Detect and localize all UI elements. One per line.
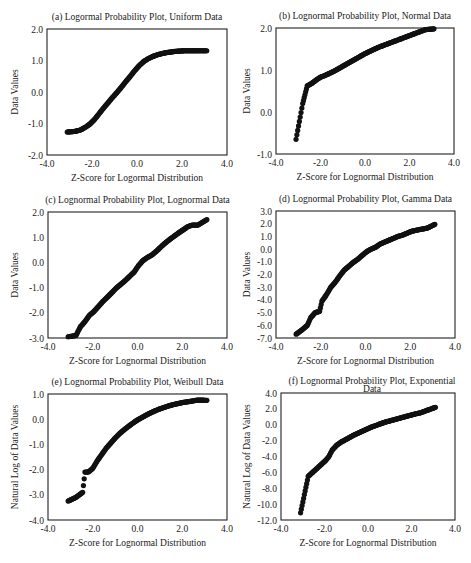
panel-e: (e) Lognormal Probability Plot, Weibull … [10, 377, 233, 548]
x-tick-label: -2.0 [84, 159, 99, 169]
data-point [82, 476, 87, 481]
data-points [65, 48, 210, 134]
y-tick-label: -2.0 [262, 436, 277, 446]
data-point [296, 123, 301, 128]
x-tick-label: -4.0 [268, 342, 283, 352]
y-tick-label: -4.0 [257, 295, 272, 305]
y-tick-label: 3.0 [260, 207, 272, 217]
x-axis-label: Z-Score for Lognormal Distribution [297, 172, 434, 182]
data-point [431, 26, 436, 31]
y-tick-label: -1.0 [257, 257, 272, 267]
y-axis-label: Data Values [242, 251, 252, 297]
plot-frame [48, 394, 227, 520]
y-axis-label: Natural Log of Data Values [242, 404, 252, 509]
x-tick-label: 0.0 [359, 158, 371, 168]
y-axis-label: Data Values [242, 68, 252, 114]
x-tick-label: -2.0 [313, 158, 328, 168]
y-tick-label: 0.0 [31, 88, 43, 98]
x-tick-label: 4.0 [221, 342, 233, 352]
x-tick-label: 0.0 [362, 524, 374, 534]
y-tick-label: 0.0 [260, 245, 272, 255]
data-point [298, 110, 303, 115]
panel-f: (f) Lognormal Probability Plot, Exponent… [242, 376, 461, 548]
y-tick-label: -3.0 [29, 334, 44, 344]
y-tick-label: 0.0 [260, 108, 272, 118]
y-tick-label: -10.0 [257, 500, 277, 510]
y-tick-label: 2.0 [32, 208, 44, 218]
data-point [81, 483, 86, 488]
data-point [204, 217, 209, 222]
figure: (a) Logormal Probability Plot, Uniform D… [0, 0, 471, 563]
y-tick-label: 2.0 [260, 219, 272, 229]
y-tick-label: 0.0 [265, 420, 277, 430]
x-axis-label: Z-Score for Lognormal Distribution [297, 356, 434, 366]
panel-b: (b) Lognormal Probability Plot, Normal D… [242, 11, 460, 182]
panel-d: (d) Lognormal Probability Plot, Gamma Da… [242, 194, 461, 366]
x-tick-label: 4.0 [221, 159, 233, 169]
chart-title: (f) Lognormal Probability Plot, Exponent… [288, 376, 455, 394]
data-points [66, 217, 210, 339]
x-tick-label: -4.0 [40, 524, 55, 534]
y-tick-label: -2.0 [28, 151, 43, 161]
y-tick-label: 1.0 [260, 232, 272, 242]
data-points [298, 405, 438, 516]
data-point [294, 132, 299, 137]
x-tick-label: 2.0 [176, 159, 188, 169]
x-tick-label: 2.0 [404, 158, 416, 168]
plot-frame [48, 212, 227, 338]
y-tick-label: -1.0 [29, 283, 44, 293]
x-tick-label: 2.0 [176, 524, 188, 534]
x-tick-label: -4.0 [268, 158, 283, 168]
y-tick-label: -4.0 [29, 516, 44, 526]
x-tick-label: 2.0 [404, 342, 416, 352]
panel-a: (a) Logormal Probability Plot, Uniform D… [10, 12, 233, 183]
y-tick-label: -1.0 [29, 440, 44, 450]
data-point [80, 490, 85, 495]
x-tick-label: 4.0 [448, 158, 460, 168]
y-tick-label: -6.0 [257, 321, 272, 331]
x-tick-label: -2.0 [317, 524, 332, 534]
y-tick-label: 0.0 [32, 258, 44, 268]
y-tick-label: -2.0 [257, 270, 272, 280]
data-points [66, 397, 210, 503]
y-tick-label: -12.0 [257, 516, 277, 526]
y-axis-label: Data Values [10, 69, 20, 115]
x-tick-label: -2.0 [313, 342, 328, 352]
x-tick-label: 0.0 [360, 342, 372, 352]
x-tick-label: -2.0 [85, 342, 100, 352]
data-points [294, 222, 438, 337]
data-point [204, 48, 209, 53]
chart-title: (d) Lognormal Probability Plot, Gamma Da… [279, 194, 453, 205]
data-points [293, 26, 436, 142]
y-tick-label: -3.0 [29, 490, 44, 500]
y-tick-label: 2.0 [31, 25, 43, 35]
y-tick-label: 1.0 [32, 390, 44, 400]
x-tick-label: 0.0 [131, 159, 143, 169]
x-tick-label: -4.0 [39, 159, 54, 169]
data-point [297, 119, 302, 124]
x-tick-label: 2.0 [406, 524, 418, 534]
y-tick-label: -2.0 [29, 465, 44, 475]
data-point [295, 128, 300, 133]
x-tick-label: -4.0 [40, 342, 55, 352]
x-tick-label: 0.0 [132, 342, 144, 352]
y-tick-label: -1.0 [257, 150, 272, 160]
data-point [204, 398, 209, 403]
x-axis-label: Z-Score for Lognormal Distribution [300, 538, 437, 548]
chart-title: (a) Logormal Probability Plot, Uniform D… [52, 12, 223, 23]
y-tick-label: -7.0 [257, 334, 272, 344]
data-point [293, 137, 298, 142]
x-tick-label: 2.0 [176, 342, 188, 352]
y-tick-label: -6.0 [262, 468, 277, 478]
data-point [433, 405, 438, 410]
panel-c: (c) Lognormal Probability Plot, Lognorma… [10, 195, 233, 366]
x-axis-label: Z-Score for Logormal Distribution [71, 173, 203, 183]
y-tick-label: 0.0 [32, 415, 44, 425]
y-axis-label: Natural Log of Data Values [10, 405, 20, 510]
x-axis-label: Z-Score for Lognormal Distribution [69, 356, 206, 366]
y-tick-label: 2.0 [260, 24, 272, 34]
y-tick-label: 1.0 [31, 56, 43, 66]
x-tick-label: -4.0 [273, 524, 288, 534]
y-tick-label: -3.0 [257, 283, 272, 293]
y-tick-label: 4.0 [265, 389, 277, 399]
